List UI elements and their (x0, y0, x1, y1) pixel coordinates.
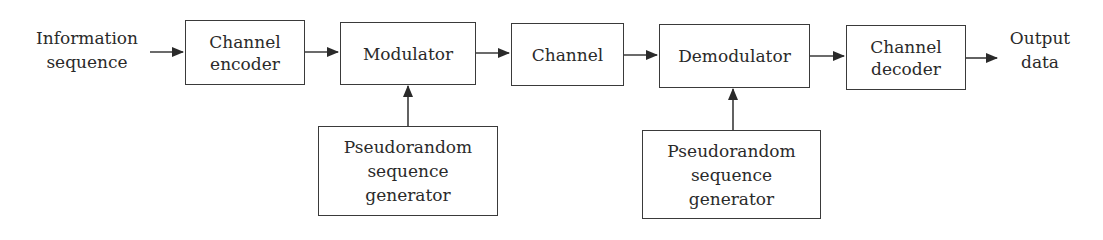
block-label: sequence (691, 163, 772, 187)
block-label: Modulator (363, 43, 453, 65)
input-label: Information sequence (28, 26, 146, 74)
block-label: Pseudorandom (667, 139, 795, 163)
block-label: generator (365, 183, 450, 207)
input-label-line-1: Information (28, 26, 146, 50)
pseudorandom-generator-rx-block: Pseudorandom sequence generator (642, 130, 821, 219)
demodulator-block: Demodulator (659, 24, 810, 88)
block-label: Channel (209, 31, 281, 53)
block-label: generator (689, 187, 774, 211)
channel-encoder-block: Channel encoder (185, 20, 305, 85)
input-label-line-2: sequence (28, 50, 146, 74)
block-label: Demodulator (678, 45, 791, 67)
modulator-block: Modulator (340, 22, 476, 85)
channel-decoder-block: Channel decoder (846, 25, 966, 90)
block-label: sequence (367, 159, 448, 183)
block-label: Channel (532, 44, 604, 66)
block-label: encoder (210, 53, 280, 75)
output-label-line-2: data (1000, 50, 1080, 74)
output-label: Output data (1000, 26, 1080, 74)
block-label: Channel (870, 36, 942, 58)
pseudorandom-generator-tx-block: Pseudorandom sequence generator (318, 126, 498, 216)
block-label: decoder (871, 58, 941, 80)
block-label: Pseudorandom (344, 135, 472, 159)
output-label-line-1: Output (1000, 26, 1080, 50)
channel-block: Channel (511, 23, 624, 86)
